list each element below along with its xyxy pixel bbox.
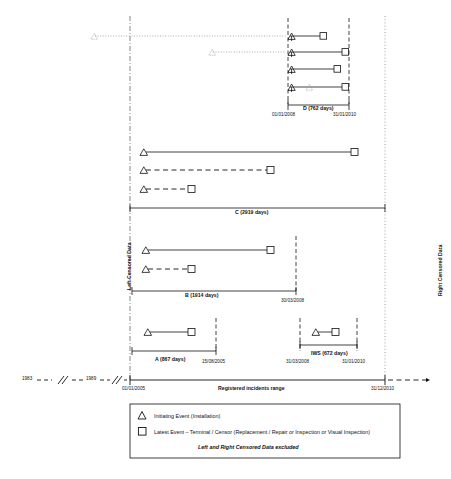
bracket-label-a: A (867 days) [155, 357, 185, 362]
lifeline-d-3 [288, 66, 341, 74]
lifeline-d-2 [209, 49, 349, 57]
bracket-label-c: C (2919 days) [235, 210, 268, 215]
axis-range-label: Registered incidents range [218, 385, 285, 391]
timeline-diagram [0, 0, 451, 479]
bracket-a [132, 347, 216, 355]
figure-canvas: D (762 days) 01/01/2008 31/01/2010 C (29… [0, 0, 451, 479]
bracket-label-iws: IWS (672 days) [311, 351, 348, 356]
axis-year-1989: 1989 [86, 377, 96, 382]
axis-year-1983: 1983 [22, 377, 32, 382]
lifeline-b-1 [142, 246, 274, 253]
lifeline-c-3 [140, 185, 195, 192]
lifeline-d-4 [288, 84, 349, 92]
date-d-start: 01/01/2008 [272, 113, 295, 118]
lifeline-iws-1 [312, 328, 339, 335]
date-iws-end: 31/01/2010 [342, 360, 365, 365]
right-censored-label: Right Censored Data [437, 245, 443, 296]
lifeline-a-1 [144, 328, 195, 335]
date-a-end: 15/08/2005 [202, 360, 225, 365]
lifeline-c-2 [140, 166, 274, 173]
bracket-iws [300, 341, 357, 349]
legend-latest-text: Latest Event – Terminal / Censor (Replac… [154, 429, 370, 435]
lifeline-b-2 [142, 265, 195, 272]
legend-initiating-text: Initiating Event (Installation) [154, 413, 220, 419]
date-b-end: 30/03/2008 [281, 299, 304, 304]
left-censored-label: Left Censored Data [126, 242, 132, 290]
legend-note-text: Left and Right Censored Data excluded [198, 444, 299, 450]
axis-end-date: 31/12/2010 [371, 387, 394, 392]
date-d-end: 31/01/2010 [333, 113, 356, 118]
bracket-label-d: D (762 days) [303, 106, 334, 111]
lifeline-c-1 [140, 148, 358, 155]
bracket-label-b: B (1914 days) [185, 293, 218, 298]
lifeline-d-1 [91, 33, 327, 41]
axis-start-date: 01/01/2005 [122, 387, 145, 392]
date-iws-start: 31/03/2008 [286, 360, 309, 365]
